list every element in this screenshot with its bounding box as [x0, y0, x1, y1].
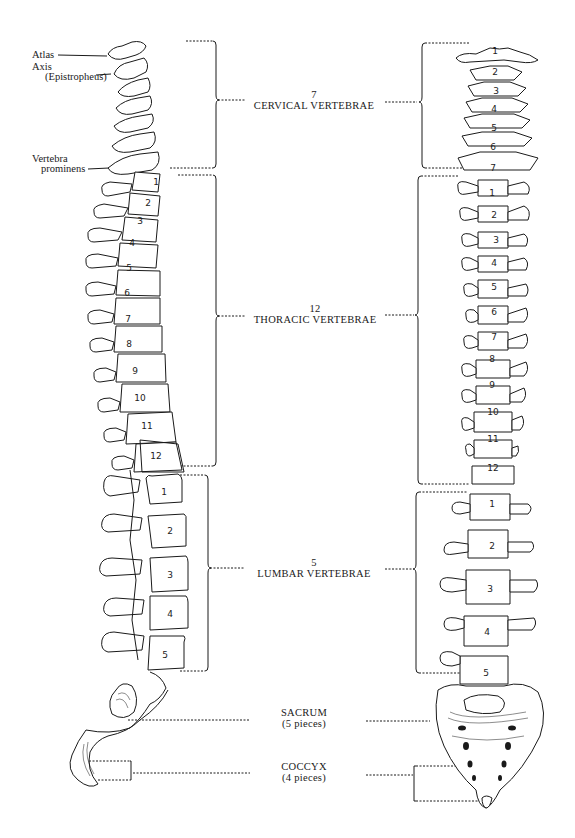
lateral-t11: 11 [141, 421, 152, 431]
region-lumbar: 5 LUMBAR VERTEBRAE [257, 557, 370, 579]
anterior-t5: 5 [491, 282, 497, 292]
anterior-t11: 11 [487, 434, 498, 444]
spine-diagram: Atlas Axis (Epistropheus) Vertebra promi… [0, 0, 575, 838]
anterior-t8: 8 [489, 354, 495, 364]
lateral-t4: 4 [129, 238, 135, 248]
lateral-l2: 2 [167, 526, 173, 536]
cervical-name: CERVICAL VERTEBRAE [254, 100, 374, 111]
lateral-t7: 7 [125, 314, 131, 324]
lateral-l5: 5 [162, 650, 168, 660]
anterior-l3: 3 [487, 584, 493, 594]
thoracic-count: 12 [254, 303, 377, 314]
anterior-t4: 4 [491, 258, 497, 268]
bracket-cervical-right-brace [419, 43, 425, 168]
anterior-c4: 4 [491, 104, 497, 114]
anterior-l2: 2 [489, 541, 495, 551]
bracket-thoracic-right-brace [415, 176, 421, 484]
anterior-t12: 12 [487, 463, 498, 473]
lateral-t8: 8 [126, 339, 132, 349]
lateral-t5: 5 [126, 263, 132, 273]
region-thoracic: 12 THORACIC VERTEBRAE [254, 303, 377, 325]
anterior-c6: 6 [490, 142, 496, 152]
anterior-t9: 9 [489, 380, 495, 390]
lateral-t6: 6 [124, 288, 130, 298]
anterior-c3: 3 [493, 86, 499, 96]
lateral-t1: 1 [153, 177, 159, 187]
bracket-lumbar-left-brace [205, 475, 211, 671]
region-cervical: 7 CERVICAL VERTEBRAE [254, 89, 374, 111]
anterior-t6: 6 [491, 307, 497, 317]
label-prominens: prominens [41, 163, 85, 175]
anterior-l5: 5 [483, 668, 489, 678]
anterior-c2: 2 [492, 67, 498, 77]
lateral-t10: 10 [134, 393, 145, 403]
lateral-t9: 9 [132, 366, 138, 376]
lateral-l4: 4 [167, 609, 173, 619]
sacrum-detail: (5 pieces) [281, 718, 327, 729]
region-sacrum: SACRUM (5 pieces) [281, 707, 327, 729]
lumbar-count: 5 [257, 557, 370, 568]
region-coccyx: COCCYX (4 pieces) [281, 761, 327, 783]
anterior-t2: 2 [491, 210, 497, 220]
sacrum-name: SACRUM [281, 707, 327, 718]
cervical-count: 7 [254, 89, 374, 100]
anterior-t1: 1 [489, 188, 495, 198]
anterior-l1: 1 [489, 499, 495, 509]
anterior-t3: 3 [493, 235, 499, 245]
anterior-l4: 4 [484, 627, 490, 637]
label-epistropheus: (Epistropheus) [45, 71, 107, 83]
bracket-lumbar-right-brace [413, 492, 419, 673]
anterior-spine [436, 48, 544, 808]
anterior-c1: 1 [492, 46, 498, 56]
lateral-l1: 1 [161, 487, 167, 497]
bracket-cervical-left-brace [213, 41, 219, 168]
anterior-t7: 7 [491, 332, 497, 342]
bracket-thoracic-left-brace [213, 175, 219, 466]
lateral-spine [70, 42, 188, 787]
bracket-cervical-left [170, 41, 245, 168]
lumbar-name: LUMBAR VERTEBRAE [257, 568, 370, 579]
lateral-l3: 3 [167, 570, 173, 580]
label-atlas: Atlas [32, 49, 54, 61]
lateral-t12: 12 [150, 451, 161, 461]
lateral-t2: 2 [145, 198, 151, 208]
thoracic-name: THORACIC VERTEBRAE [254, 314, 377, 325]
anterior-c7: 7 [490, 163, 496, 173]
anterior-t10: 10 [487, 407, 498, 417]
anterior-c5: 5 [491, 123, 497, 133]
coccyx-name: COCCYX [281, 761, 327, 772]
lateral-t3: 3 [137, 216, 143, 226]
coccyx-detail: (4 pieces) [281, 772, 327, 783]
